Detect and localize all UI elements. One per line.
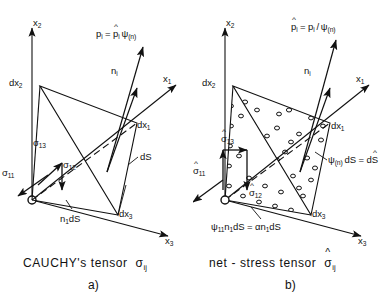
stipple-pattern-face [227,94,326,212]
axis-label-x1: x1 [356,74,364,84]
arrow-sigma-11-hat [193,180,223,202]
vertex-label-dx3: dx3 [312,209,325,219]
caption-b-symbol: σij [324,256,335,270]
caption-a-symbol: σij [136,256,147,270]
traction-vector-label: pi = pi / ψ(n) [291,22,336,32]
axis-label-x2: x2 [226,18,234,28]
caption-panel-a: CAUCHY's tensor σij [23,256,147,270]
caption-a-text: CAUCHY's tensor [23,256,128,270]
edge-origin-dx1-hidden [32,123,137,200]
stress-label-sigma-11: σ11 [2,168,14,178]
stress-label-sigma-12-hat: σ12 [249,188,262,198]
vertex-label-dx3: dx3 [119,209,132,219]
base-label-n1dS: n1dS [60,214,80,224]
vertex-label-dx1: dx1 [137,120,150,130]
axis-label-x2: x2 [33,18,41,28]
caption-b-text: net - stress tensor [209,256,316,270]
arrow-sigma-13 [38,163,62,185]
axis-label-x3: x3 [165,236,173,246]
panel-net-stress-tensor: x2 x1 x3 dx2 dx1 dx3 pi = pi / ψ(n) ni σ… [193,0,386,304]
traction-vector-label: pi = pi ψ(n) [96,29,136,39]
oblique-face-triangle [40,86,137,215]
area-label-dS: dS [140,152,151,162]
leader-n1dS [66,200,72,209]
axis-label-x1: x1 [163,74,171,84]
normal-vector-arrow [107,88,137,172]
sublabel-a: a) [88,278,99,292]
stress-label-sigma-12: σ12 [63,160,76,170]
figure-root: x2 x1 x3 dx2 dx1 dx3 pi = pi ψ(n) ni σ13… [0,0,386,304]
stress-label-sigma-13: σ13 [33,138,46,148]
caption-panel-b: net - stress tensor σij [209,256,336,270]
axis-label-x3: x3 [358,236,366,246]
stress-label-sigma-11-hat: σ11 [193,166,205,176]
edge-dx3-origin [225,200,311,215]
base-label-psi11-n1dS: ψ11n1dS = αn1dS [211,222,281,232]
stress-label-sigma-13-hat: σ13 [221,134,234,144]
origin-marker [221,196,229,204]
axis-line-x1 [32,85,176,200]
sublabel-b: b) [285,278,296,292]
vertex-label-dx2: dx2 [202,78,215,88]
normal-vector-label: ni [304,66,311,76]
normal-vector-label: ni [111,66,118,76]
area-label-psi-dS: ψ(n) dS = dS [328,155,378,165]
vertex-label-dx1: dx1 [331,121,344,131]
vertex-label-dx2: dx2 [9,78,22,88]
panel-cauchy-tensor: x2 x1 x3 dx2 dx1 dx3 pi = pi ψ(n) ni σ13… [0,0,193,304]
axis-line-x3 [32,200,168,236]
traction-vector-arrow [300,40,336,172]
leader-area [315,152,327,160]
edge-origin-dx1-hidden [225,123,330,200]
